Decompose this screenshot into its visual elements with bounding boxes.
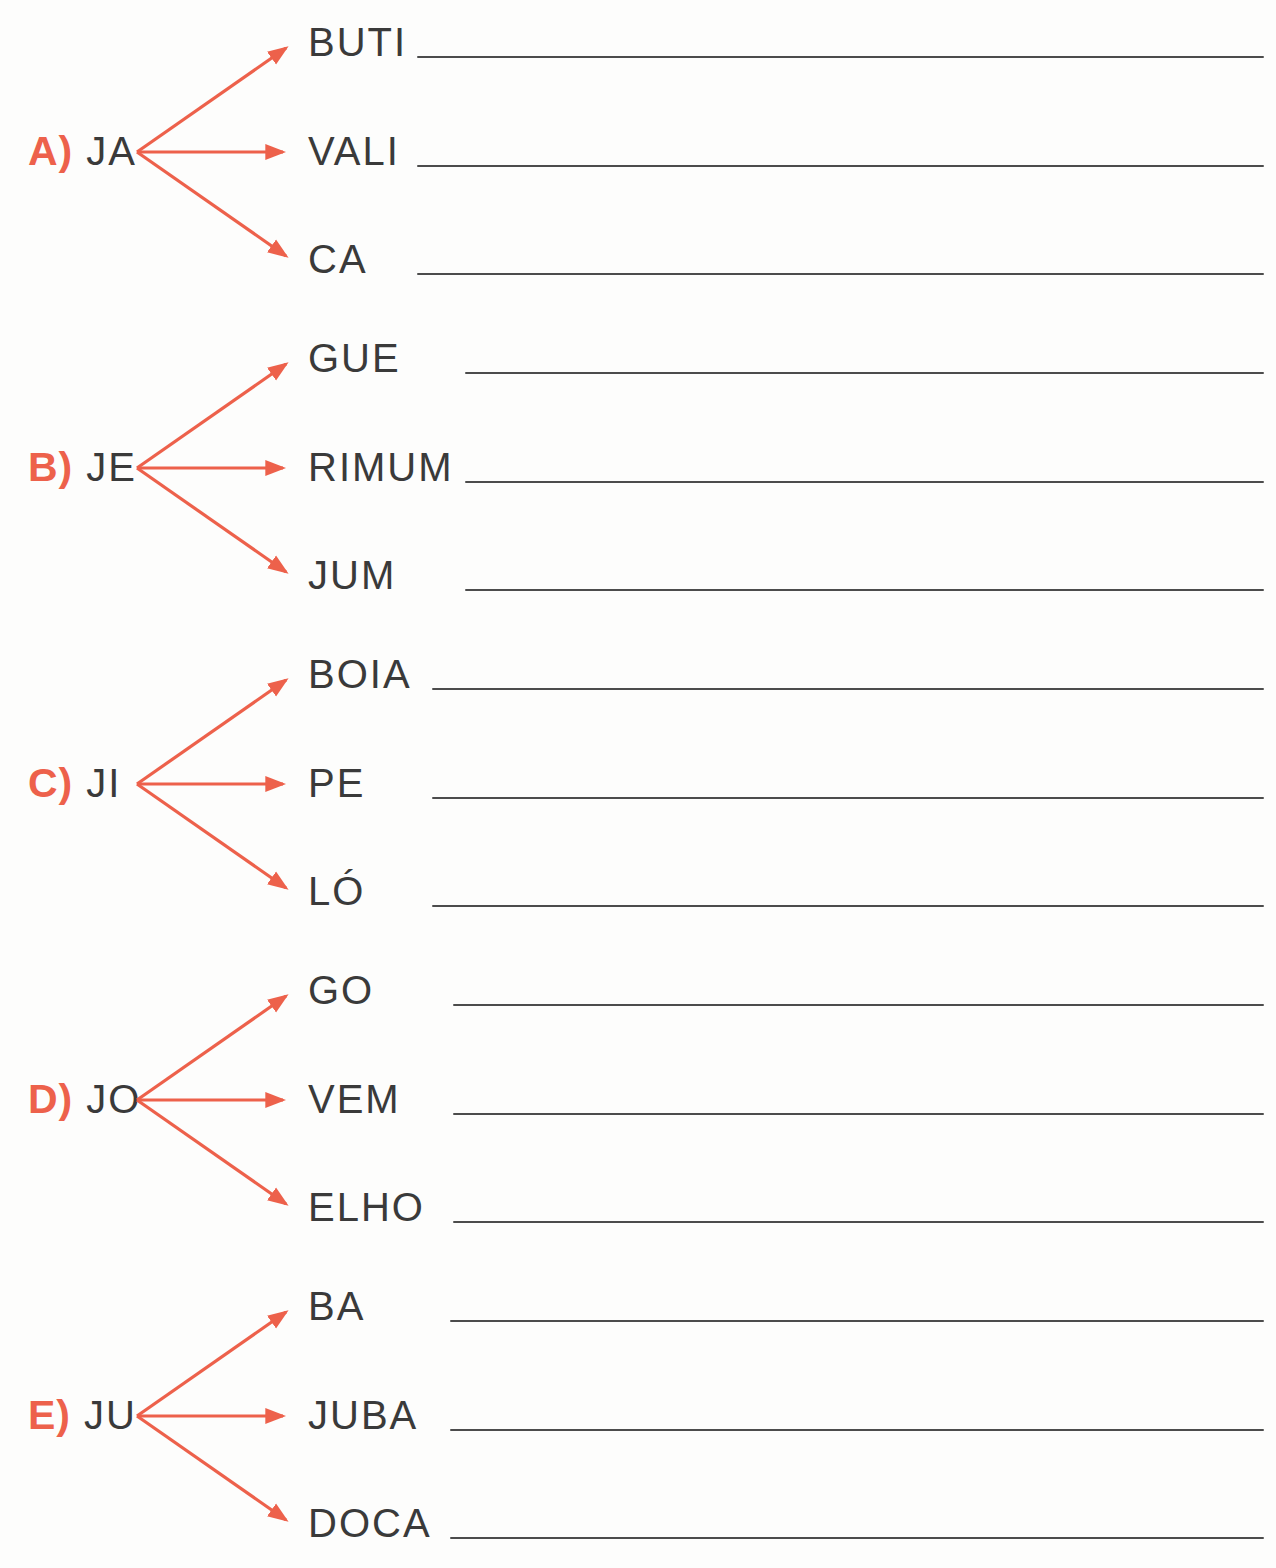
word-fragment: BOIA [308, 648, 432, 700]
syllable-label: JO [86, 1073, 141, 1125]
word-row: VEM [308, 1073, 1264, 1125]
worksheet-page: A)JABUTIVALICAB)JEGUERIMUMJUMC)JIBOIAPEL… [0, 0, 1276, 1568]
word-fragment: VALI [308, 125, 417, 177]
word-row: ELHO [308, 1181, 1264, 1233]
arrow-icon [137, 784, 286, 888]
group-letter: C) [28, 757, 73, 809]
word-fragment: PE [308, 757, 432, 809]
group-label: A)JA [28, 125, 137, 177]
arrow-icon [137, 680, 286, 784]
group-letter: E) [28, 1389, 71, 1441]
answer-line[interactable] [417, 273, 1264, 275]
answer-line[interactable] [432, 905, 1264, 907]
exercise-group-b: B)JEGUERIMUMJUM [0, 316, 1276, 632]
arrow-icon [137, 364, 286, 468]
word-fragment: CA [308, 233, 417, 285]
answer-line[interactable] [453, 1221, 1264, 1223]
answer-line[interactable] [465, 372, 1264, 374]
word-row: GO [308, 964, 1264, 1016]
syllable-label: JE [86, 441, 137, 493]
word-row: DOCA [308, 1497, 1264, 1549]
syllable-label: JA [86, 125, 137, 177]
word-row: BOIA [308, 648, 1264, 700]
exercise-group-c: C)JIBOIAPELÓ [0, 632, 1276, 948]
word-row: LÓ [308, 865, 1264, 917]
answer-line[interactable] [417, 56, 1264, 58]
arrow-icon [137, 996, 286, 1100]
word-fragment: BA [308, 1280, 450, 1332]
group-label: E)JU [28, 1389, 137, 1441]
word-fragment: ELHO [308, 1181, 453, 1233]
answer-line[interactable] [417, 165, 1264, 167]
answer-line[interactable] [453, 1113, 1264, 1115]
group-letter: B) [28, 441, 73, 493]
word-fragment: JUBA [308, 1389, 450, 1441]
group-label: D)JO [28, 1073, 141, 1125]
word-row: GUE [308, 332, 1264, 384]
answer-line[interactable] [465, 589, 1264, 591]
word-fragment: GO [308, 964, 453, 1016]
group-letter: D) [28, 1073, 73, 1125]
arrow-icon [137, 48, 286, 152]
exercise-group-e: E)JUBAJUBADOCA [0, 1264, 1276, 1568]
word-fragment: BUTI [308, 16, 417, 68]
group-label: C)JI [28, 757, 121, 809]
word-fragment: RIMUM [308, 441, 465, 493]
word-fragment: VEM [308, 1073, 453, 1125]
word-row: JUM [308, 549, 1264, 601]
answer-line[interactable] [432, 797, 1264, 799]
syllable-label: JI [86, 757, 121, 809]
word-row: RIMUM [308, 441, 1264, 493]
group-letter: A) [28, 125, 73, 177]
word-row: BA [308, 1280, 1264, 1332]
syllable-label: JU [84, 1389, 137, 1441]
answer-line[interactable] [450, 1320, 1264, 1322]
arrow-icon [137, 1416, 286, 1520]
arrow-icon [137, 1312, 286, 1416]
word-fragment: GUE [308, 332, 465, 384]
exercise-group-d: D)JOGOVEMELHO [0, 948, 1276, 1264]
arrow-icon [137, 1100, 286, 1204]
arrow-icon [137, 152, 286, 256]
word-fragment: LÓ [308, 865, 432, 917]
word-row: VALI [308, 125, 1264, 177]
word-row: PE [308, 757, 1264, 809]
answer-line[interactable] [465, 481, 1264, 483]
word-row: BUTI [308, 16, 1264, 68]
answer-line[interactable] [432, 688, 1264, 690]
exercise-group-a: A)JABUTIVALICA [0, 0, 1276, 316]
group-label: B)JE [28, 441, 137, 493]
arrow-icon [137, 468, 286, 572]
answer-line[interactable] [450, 1537, 1264, 1539]
answer-line[interactable] [453, 1004, 1264, 1006]
word-fragment: DOCA [308, 1497, 450, 1549]
word-row: JUBA [308, 1389, 1264, 1441]
word-fragment: JUM [308, 549, 465, 601]
answer-line[interactable] [450, 1429, 1264, 1431]
word-row: CA [308, 233, 1264, 285]
